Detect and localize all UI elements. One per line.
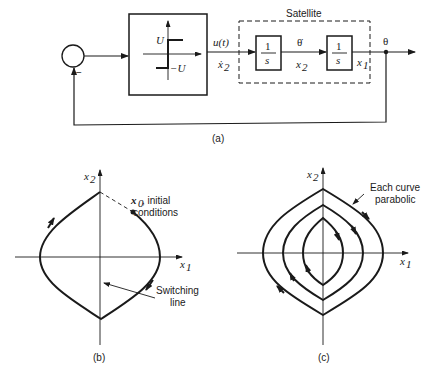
integrator-2-numerator: 1	[336, 40, 342, 52]
figure: − U −U u(t) ẋ 2 Satellite 1 s θ̇ x 2 1 s	[0, 0, 436, 374]
rate-label: θ̇	[297, 36, 303, 48]
svg-text:x: x	[306, 168, 312, 180]
integrator-1-numerator: 1	[265, 40, 271, 52]
caption-c: (c)	[318, 352, 330, 363]
svg-text:x: x	[179, 258, 185, 270]
svg-text:x: x	[356, 56, 362, 68]
control-signal-label: u(t)	[213, 36, 229, 49]
dashed-projection	[100, 192, 133, 212]
relay-upper-label: U	[156, 34, 165, 46]
initial-condition-label: x 0 , initial conditions	[130, 194, 178, 218]
parabolic-note-pointer	[353, 194, 364, 204]
switching-line-label-1: Switching	[156, 285, 199, 296]
rate-state-label: x 2	[295, 58, 308, 73]
svg-text:x: x	[83, 170, 89, 182]
phase-plane-c: x 2 x 1 Each curve parabolic (c)	[237, 168, 420, 363]
switching-line-label-2: line	[170, 297, 186, 308]
parabolic-note-line-2: parabolic	[375, 194, 416, 205]
svg-text:conditions: conditions	[133, 207, 178, 218]
x2-axis-label: x 2	[83, 170, 96, 185]
relay-lower-label: −U	[170, 62, 186, 74]
svg-text:2: 2	[224, 61, 230, 73]
arrow-inner-left	[306, 265, 309, 273]
svg-text:2: 2	[302, 61, 308, 73]
svg-text:x: x	[399, 255, 405, 267]
x2-axis-label: x 2	[306, 168, 319, 183]
block-diagram: − U −U u(t) ẋ 2 Satellite 1 s θ̇ x 2 1 s	[62, 8, 415, 144]
integrator-2-denominator: s	[336, 54, 340, 66]
integrator-1-denominator: s	[265, 54, 269, 66]
svg-text:1: 1	[186, 261, 192, 273]
svg-text:ẋ: ẋ	[217, 58, 223, 70]
x1-axis-label: x 1	[399, 255, 412, 270]
svg-text:1: 1	[406, 258, 412, 270]
svg-text:x: x	[130, 194, 137, 206]
control-signal-state-label: ẋ 2	[217, 58, 230, 73]
svg-text:1: 1	[363, 59, 369, 71]
svg-text:2: 2	[313, 171, 319, 183]
caption-a: (a)	[212, 133, 224, 144]
arrow-inner-right	[336, 232, 339, 240]
parabolic-note-line-1: Each curve	[370, 182, 420, 193]
x1-axis-label: x 1	[179, 258, 192, 273]
svg-text:x: x	[295, 58, 301, 70]
direction-arrow-upper-left	[48, 218, 54, 228]
satellite-title: Satellite	[286, 8, 322, 19]
position-state-label: x 1	[356, 56, 369, 71]
phase-plane-b: x 2 x 1 x 0 , initial conditions Switchi…	[15, 170, 199, 363]
caption-b: (b)	[93, 352, 105, 363]
output-theta-label: θ	[383, 35, 388, 47]
summing-junction	[62, 45, 84, 67]
summing-minus-sign: −	[76, 67, 82, 78]
svg-text:2: 2	[90, 173, 96, 185]
svg-text:, initial: , initial	[142, 195, 170, 206]
